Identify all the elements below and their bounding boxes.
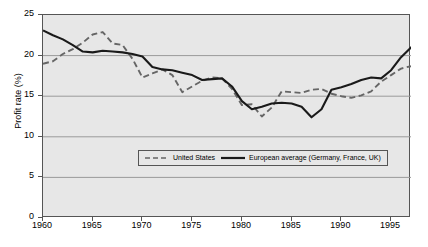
chart-legend: United States European average (Germany,…	[138, 150, 388, 166]
x-tick-mark	[191, 217, 192, 221]
y-tick-label: 20	[0, 50, 34, 59]
legend-swatch-dashed	[145, 154, 169, 162]
x-tick-label: 1960	[22, 221, 62, 230]
x-tick-label: 1970	[121, 221, 161, 230]
x-tick-mark	[141, 217, 142, 221]
x-tick-label: 1965	[72, 221, 112, 230]
y-tick-label: 25	[0, 9, 34, 18]
x-tick-mark	[241, 217, 242, 221]
legend-item-european-average: European average (Germany, France, UK)	[221, 154, 381, 162]
y-tick-label: 5	[0, 171, 34, 180]
legend-swatch-solid	[221, 154, 245, 162]
series-line-united-states	[43, 32, 411, 116]
plot-area	[42, 14, 410, 217]
y-axis-title: Profit rate (%)	[13, 41, 23, 161]
x-tick-mark	[291, 217, 292, 221]
x-tick-mark	[92, 217, 93, 221]
x-tick-mark	[340, 217, 341, 221]
legend-label-united-states: United States	[173, 154, 215, 162]
x-tick-label: 1975	[171, 221, 211, 230]
series-line-european-average	[43, 30, 411, 117]
y-tick-label: 0	[0, 212, 34, 221]
chart-svg	[43, 15, 411, 218]
x-tick-label: 1990	[320, 221, 360, 230]
legend-item-united-states: United States	[145, 154, 215, 162]
chart-figure: Profit rate (%) 0510152025 1960196519701…	[0, 0, 428, 247]
data-series-layer	[43, 30, 411, 117]
x-tick-label: 1980	[221, 221, 261, 230]
x-tick-label: 1995	[370, 221, 410, 230]
x-tick-mark	[42, 217, 43, 221]
y-tick-label: 10	[0, 131, 34, 140]
x-tick-mark	[390, 217, 391, 221]
x-tick-label: 1985	[271, 221, 311, 230]
y-tick-label: 15	[0, 90, 34, 99]
legend-label-european-average: European average (Germany, France, UK)	[249, 154, 381, 162]
